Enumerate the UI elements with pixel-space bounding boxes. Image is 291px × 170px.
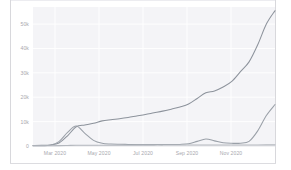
x-tick-label: Jul 2020 — [133, 150, 153, 156]
x-tick-label: May 2020 — [87, 150, 110, 156]
y-tick-label: 40k — [20, 45, 29, 51]
chart-svg: 010k20k30k40k50k Mar 2020May 2020Jul 202… — [0, 0, 291, 170]
y-tick-label: 0 — [26, 143, 29, 149]
x-tick-label: Nov 2020 — [220, 150, 243, 156]
plot-background — [33, 7, 275, 146]
line-chart: 010k20k30k40k50k Mar 2020May 2020Jul 202… — [0, 0, 291, 170]
screenshot-root: 010k20k30k40k50k Mar 2020May 2020Jul 202… — [0, 0, 291, 170]
y-tick-label: 30k — [20, 70, 29, 76]
y-tick-label: 20k — [20, 94, 29, 100]
y-tick-label: 50k — [20, 21, 29, 27]
x-tick-label: Mar 2020 — [44, 150, 66, 156]
y-tick-label: 10k — [20, 119, 29, 125]
y-axis-tick-labels: 010k20k30k40k50k — [20, 21, 29, 149]
x-axis-tick-labels: Mar 2020May 2020Jul 2020Sep 2020Nov 2020 — [44, 150, 243, 156]
x-tick-label: Sep 2020 — [176, 150, 199, 156]
